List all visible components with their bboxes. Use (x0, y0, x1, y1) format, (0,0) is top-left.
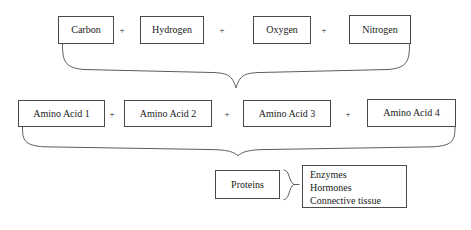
brace-elements-to-amino-acids (63, 44, 410, 88)
connector-layer (0, 0, 471, 230)
brace-amino-acids-to-proteins (23, 127, 456, 156)
brace-proteins-to-products (284, 170, 299, 200)
protein-synthesis-diagram: Carbon + Hydrogen + Oxygen + Nitrogen Am… (0, 0, 471, 230)
